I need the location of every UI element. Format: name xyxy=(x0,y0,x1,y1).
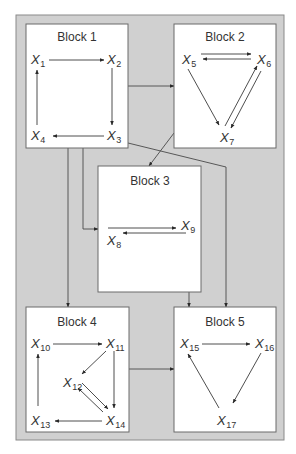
block4-title: Block 4 xyxy=(57,315,97,329)
block5-title: Block 5 xyxy=(205,315,245,329)
block-diagram: Block 1Block 2Block 3Block 4Block 5 X1X2… xyxy=(0,0,296,454)
block1-title: Block 1 xyxy=(57,30,97,44)
block3-title: Block 3 xyxy=(130,174,170,188)
block2-title: Block 2 xyxy=(205,30,245,44)
